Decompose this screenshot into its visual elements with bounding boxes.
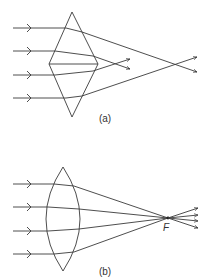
diagram-a: (a) <box>13 12 197 124</box>
diverging-rays-b <box>168 208 198 228</box>
converging-rays-b <box>74 186 168 252</box>
outgoing-rays-a <box>82 32 197 96</box>
label-a: (a) <box>99 113 111 124</box>
incoming-rays-b <box>13 180 54 258</box>
label-b: (b) <box>99 266 111 277</box>
incoming-rays-a <box>13 24 66 102</box>
convex-lens <box>46 167 80 271</box>
focal-point-label: F <box>163 222 170 233</box>
lens-diagram: (a) <box>0 0 209 278</box>
diagram-b: F (b) <box>13 167 198 277</box>
internal-rays-b <box>48 184 79 254</box>
